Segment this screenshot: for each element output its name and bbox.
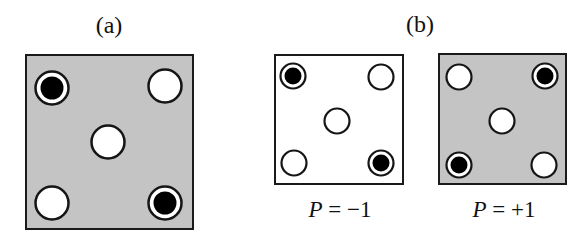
open-circle-icon bbox=[532, 153, 557, 178]
filled-circle-icon bbox=[447, 153, 472, 178]
caption-variable: P bbox=[472, 197, 486, 222]
filled-circle-icon bbox=[149, 187, 182, 220]
open-circle-icon bbox=[92, 126, 125, 159]
panel-a-circles bbox=[36, 70, 182, 220]
caption-value: = +1 bbox=[487, 197, 536, 222]
caption-value: = −1 bbox=[323, 197, 372, 222]
caption-p-plus-1: P = +1 bbox=[449, 198, 559, 222]
open-circle-icon bbox=[369, 65, 394, 90]
panel-b-left-circles bbox=[281, 64, 394, 176]
filled-circle-icon bbox=[533, 64, 558, 89]
open-circle-icon bbox=[36, 187, 69, 220]
panel-b-right-circles bbox=[447, 64, 558, 178]
filled-circle-icon bbox=[281, 64, 306, 89]
caption-p-minus-1: P = −1 bbox=[285, 198, 395, 222]
open-circle-icon bbox=[447, 65, 472, 90]
open-circle-icon bbox=[490, 109, 515, 134]
open-circle-icon bbox=[325, 109, 350, 134]
open-circle-icon bbox=[149, 70, 182, 103]
open-circle-icon bbox=[282, 151, 307, 176]
filled-circle-icon bbox=[36, 72, 69, 105]
filled-circle-icon bbox=[369, 151, 394, 176]
caption-variable: P bbox=[308, 197, 322, 222]
